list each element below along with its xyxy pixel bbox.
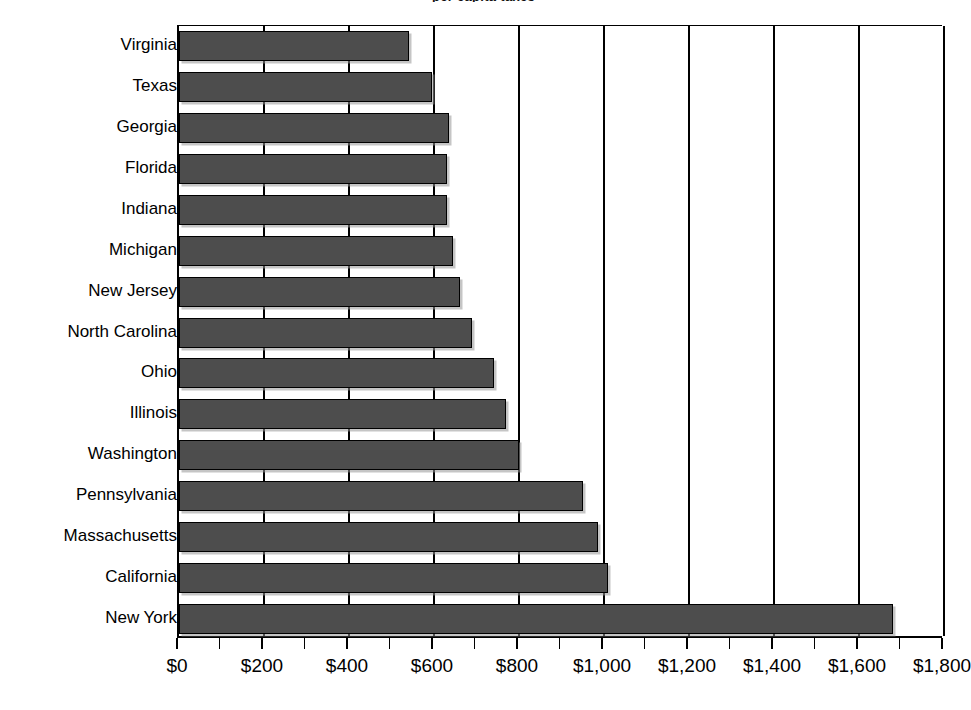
y-axis-label: California [105,568,177,585]
x-axis-label: $0 [166,656,187,676]
y-axis-label: Texas [133,77,177,94]
x-tick-major [941,638,943,649]
x-axis-label: $1,000 [573,656,631,676]
x-axis-label: $1,200 [658,656,716,676]
x-axis-label: $800 [496,656,538,676]
y-axis-label: Washington [88,445,177,462]
x-tick-minor [644,638,646,649]
x-tick-major [431,638,433,649]
x-tick-major [601,638,603,649]
x-tick-minor [729,638,731,649]
y-axis-label: Ohio [141,363,177,380]
y-axis-labels: VirginiaTexasGeorgiaFloridaIndianaMichig… [0,25,967,638]
y-axis-label: Florida [125,159,177,176]
x-tick-minor [389,638,391,649]
x-axis-label: $1,600 [828,656,886,676]
x-axis: $0$200$400$600$800$1,000$1,200$1,400$1,6… [177,638,942,698]
x-tick-major [686,638,688,649]
x-axis-label: $200 [241,656,283,676]
x-tick-minor [814,638,816,649]
x-tick-minor [474,638,476,649]
x-tick-major [346,638,348,649]
y-axis-label: New York [105,609,177,626]
x-axis-label: $1,800 [913,656,971,676]
y-axis-label: New Jersey [88,282,177,299]
x-axis-label: $600 [411,656,453,676]
x-tick-major [176,638,178,649]
x-tick-major [856,638,858,649]
x-axis-label: $400 [326,656,368,676]
y-axis-label: Pennsylvania [76,486,177,503]
chart-title: per capita taxes [0,0,967,2]
x-tick-minor [304,638,306,649]
y-axis-label: Illinois [130,404,177,421]
y-axis-label: North Carolina [67,323,177,340]
x-tick-major [771,638,773,649]
y-axis-label: Virginia [121,36,177,53]
x-tick-minor [219,638,221,649]
x-tick-major [516,638,518,649]
y-axis-label: Indiana [121,200,177,217]
x-axis-label: $1,400 [743,656,801,676]
y-axis-label: Michigan [109,241,177,258]
x-tick-minor [559,638,561,649]
y-axis-label: Massachusetts [64,527,177,544]
x-tick-major [261,638,263,649]
y-axis-label: Georgia [117,118,177,135]
x-tick-minor [899,638,901,649]
